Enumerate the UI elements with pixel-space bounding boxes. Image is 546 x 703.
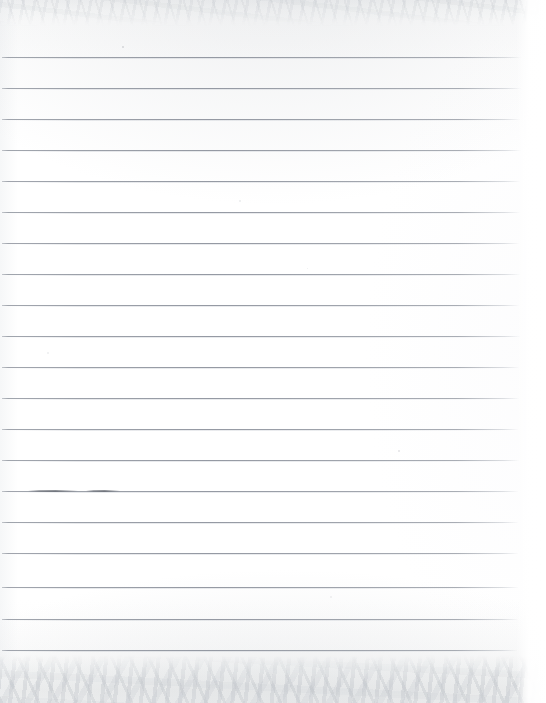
paper-sheet bbox=[0, 0, 546, 703]
graphite-smudge-left bbox=[28, 490, 78, 492]
scanned-page: Scanned blank sheet of wide-ruled lined … bbox=[0, 0, 546, 703]
graphite-smudge-right bbox=[86, 490, 120, 492]
